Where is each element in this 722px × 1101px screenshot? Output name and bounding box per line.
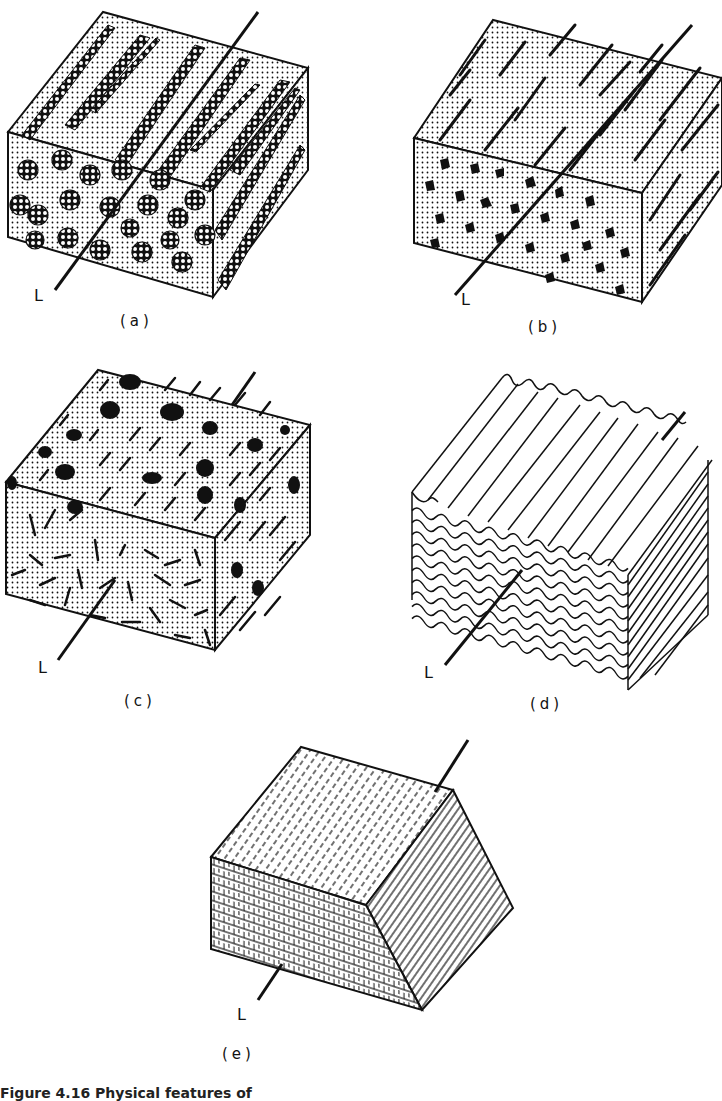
figure-caption: Figure 4.16 Physical features of: [0, 1085, 252, 1101]
laminated-block-diagram: [180, 720, 520, 1040]
axis-label-l: L: [38, 658, 47, 677]
panel-label-b: (b): [528, 318, 561, 336]
panel-b: L (b): [400, 0, 722, 300]
axis-label-l: L: [34, 286, 43, 305]
panel-label-e: (e): [222, 1045, 255, 1063]
panel-d: L (d): [410, 360, 722, 670]
fibre-bundle-block-diagram: [0, 0, 360, 300]
random-fibre-particle-block-diagram: [0, 360, 360, 660]
corrugated-laminate-block-diagram: [410, 360, 722, 670]
panel-e: L: [180, 720, 520, 1040]
panel-label-d: (d): [530, 695, 563, 713]
axis-label-l: L: [424, 663, 433, 682]
panel-a: L (a): [0, 0, 360, 300]
panel-label-a: (a): [120, 312, 153, 330]
axis-label-l: L: [237, 1005, 246, 1024]
panel-label-c: (c): [124, 692, 156, 710]
axis-label-l: L: [461, 290, 470, 309]
panel-c: L (c): [0, 360, 360, 660]
aligned-short-fibre-block-diagram: [400, 0, 722, 300]
